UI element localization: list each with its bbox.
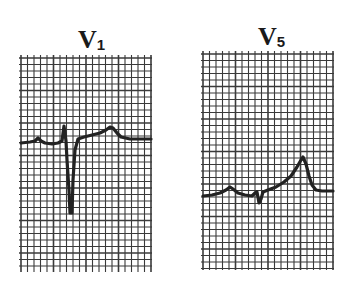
- ecg-grid-v5: [201, 51, 334, 270]
- ecg-strip-v5: [0, 0, 346, 285]
